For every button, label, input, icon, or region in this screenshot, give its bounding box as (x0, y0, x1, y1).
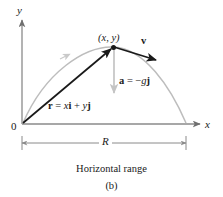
velocity-vector-label: v (141, 36, 146, 47)
projectile-motion-figure: y x 0 (x, y) v a = −gj r = xi + yj R Hor… (0, 0, 223, 197)
velocity-vector-arrow (114, 47, 156, 60)
acceleration-vector-label: a = −gj (119, 76, 150, 87)
velocity-vector-symbol: v (141, 35, 146, 46)
acceleration-symbol-j: j (147, 75, 151, 86)
y-axis-label: y (17, 5, 22, 16)
position-point-dot (111, 45, 116, 50)
position-equals: = (53, 100, 64, 111)
trajectory-direction-arrow (60, 55, 68, 59)
position-point-label: (x, y) (98, 33, 120, 44)
position-plus: + (71, 100, 82, 111)
range-label: R (99, 136, 112, 147)
position-vector-arrow (23, 49, 111, 123)
x-axis-label: x (205, 119, 210, 130)
figure-caption-title: Horizontal range (0, 163, 223, 174)
position-vector-label: r = xi + yj (48, 101, 91, 112)
figure-caption-part: (b) (0, 180, 223, 191)
acceleration-equals-minus: = − (124, 75, 141, 86)
origin-label: 0 (11, 121, 17, 132)
trajectory-curve (23, 47, 186, 123)
position-unit-j: j (87, 100, 91, 111)
